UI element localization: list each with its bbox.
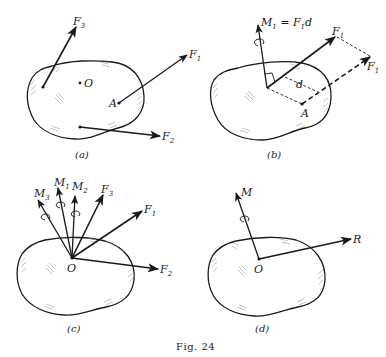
force-vector-f1 (119, 55, 187, 103)
panel-a: F3 O A F1 F2 (a) (27, 15, 201, 160)
label-f1: F1 (188, 48, 201, 63)
label-a: A (108, 97, 117, 110)
point-o (257, 257, 260, 260)
caption-d: (d) (255, 323, 269, 334)
panel-c: M3 M1 M2 F3 F1 F2 O (c) (17, 176, 173, 334)
label-m: M (240, 186, 253, 199)
label-f1: F1 (143, 203, 156, 218)
force-vector-f1-at-a (302, 57, 370, 104)
moment-vector-m3 (38, 200, 72, 258)
caption-b: (b) (267, 149, 281, 160)
label-m2: M2 (71, 180, 88, 195)
label-f2: F2 (159, 263, 173, 278)
point-o (70, 256, 73, 259)
force-vector-f1 (72, 211, 142, 258)
moment-vector-m1 (258, 25, 267, 88)
panel-d: M R O (d) (208, 186, 361, 334)
point-a (300, 102, 303, 105)
label-f3: F3 (100, 183, 114, 198)
label-f1-top: F1 (331, 25, 344, 40)
caption-a: (a) (75, 149, 89, 160)
label-f1-right: F1 (366, 60, 379, 75)
moment-vector-m (236, 193, 259, 259)
label-f3: F3 (72, 15, 86, 30)
label-r: R (352, 233, 361, 246)
resultant-vector-r (259, 239, 351, 259)
label-o: O (84, 77, 93, 90)
shading-marks (212, 239, 323, 310)
label-f2: F2 (161, 130, 175, 145)
force-vector-f3 (43, 27, 76, 87)
point-a (117, 101, 120, 104)
label-m3: M3 (33, 187, 50, 202)
panel-b: M1 = F1d F1 F1 d A (b) (211, 16, 380, 160)
label-d: d (296, 78, 303, 91)
force-vector-f2 (72, 258, 158, 269)
figure-canvas: F3 O A F1 F2 (a) M1 = F1d (0, 0, 386, 357)
label-o: O (67, 262, 76, 275)
figure-caption: Fig. 24 (176, 341, 215, 352)
label-moment-equation: M1 = F1d (260, 16, 312, 31)
shading-marks (30, 62, 142, 131)
point-o (79, 82, 82, 85)
moment-vector-m1 (58, 188, 72, 258)
application-point (41, 85, 44, 88)
label-o: O (254, 263, 263, 276)
label-m1: M1 (53, 176, 70, 191)
caption-c: (c) (67, 323, 81, 334)
application-point (78, 125, 81, 128)
rotation-arrow-icon (254, 39, 263, 46)
label-a: A (300, 107, 309, 120)
rotation-arrow-icon-m2 (71, 211, 80, 217)
force-vector-f2 (80, 127, 160, 136)
moment-vector-m2 (72, 196, 75, 258)
